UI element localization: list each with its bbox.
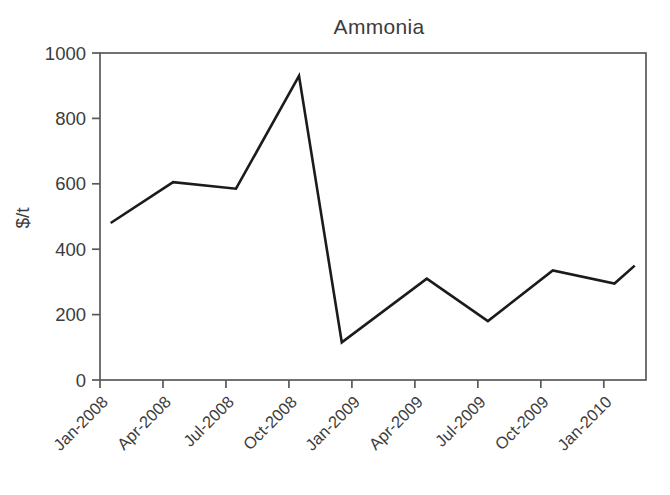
y-axis-title: $/t <box>12 207 33 229</box>
x-tick-label: Jan-2008 <box>50 392 111 453</box>
y-tick-label: 400 <box>55 239 86 260</box>
plot-border <box>100 53 646 380</box>
y-tick-label: 0 <box>76 370 86 391</box>
x-tick-label: Oct-2009 <box>491 392 552 453</box>
ammonia-price-chart: Ammonia $/t 02004006008001000 Jan-2008Ap… <box>0 0 670 495</box>
plot-frame <box>100 53 646 380</box>
x-tick-label: Oct-2008 <box>239 392 300 453</box>
x-tick-label: Jul-2009 <box>431 392 488 449</box>
chart-title: Ammonia <box>334 15 425 38</box>
ammonia-price-polyline <box>111 76 635 343</box>
x-axis-ticks: Jan-2008Apr-2008Jul-2008Oct-2008Jan-2009… <box>50 380 615 454</box>
x-tick-label: Apr-2008 <box>113 392 174 453</box>
y-tick-label: 600 <box>55 173 86 194</box>
y-tick-label: 1000 <box>45 43 86 64</box>
x-tick-label: Jan-2010 <box>554 392 615 453</box>
price-line-series <box>111 76 635 343</box>
x-tick-label: Jul-2008 <box>180 392 237 449</box>
x-tick-label: Apr-2009 <box>365 392 426 453</box>
chart-canvas: Ammonia $/t 02004006008001000 Jan-2008Ap… <box>0 0 670 495</box>
y-axis-ticks: 02004006008001000 <box>45 43 100 391</box>
y-tick-label: 200 <box>55 304 86 325</box>
x-tick-label: Jan-2009 <box>302 392 363 453</box>
y-tick-label: 800 <box>55 108 86 129</box>
